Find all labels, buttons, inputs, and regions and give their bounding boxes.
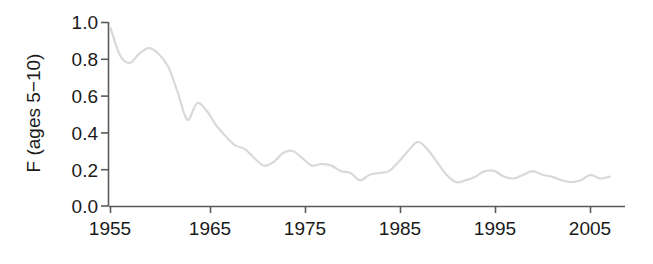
- x-tick-label-1965: 1965: [189, 218, 231, 239]
- y-tick-label-0.2: 0.2: [72, 160, 98, 181]
- y-tick-label-0.4: 0.4: [72, 123, 99, 144]
- x-tick-label-1995: 1995: [474, 218, 516, 239]
- y-tick-label-0.6: 0.6: [72, 86, 98, 107]
- y-axis-title: F (ages 5−10): [23, 54, 44, 173]
- data-series-line: [111, 28, 610, 182]
- x-tick-label-1955: 1955: [89, 218, 131, 239]
- y-tick-label-1.0: 1.0: [72, 12, 98, 33]
- line-chart: F (ages 5−10) 1.0 0.8 0.6 0.4 0.2 0.0 19…: [0, 0, 653, 264]
- y-tick-label-0.8: 0.8: [72, 49, 98, 70]
- x-tick-label-2005: 2005: [569, 218, 611, 239]
- x-tick-label-1985: 1985: [379, 218, 421, 239]
- chart-figure: F (ages 5−10) 1.0 0.8 0.6 0.4 0.2 0.0 19…: [0, 0, 653, 264]
- x-tick-label-1975: 1975: [284, 218, 326, 239]
- y-tick-label-0.0: 0.0: [72, 196, 98, 217]
